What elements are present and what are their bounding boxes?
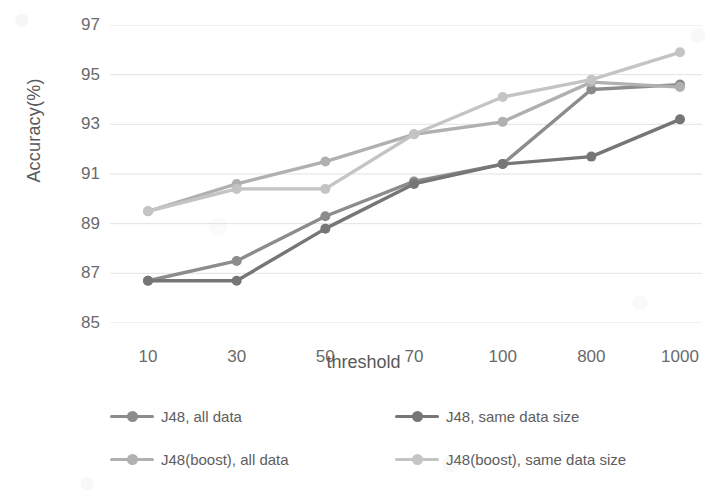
data-point	[675, 47, 685, 57]
line-chart-figure: Accuracy(%) 97959391898785 1030507010080…	[0, 0, 727, 504]
data-point	[232, 276, 242, 286]
data-point	[320, 184, 330, 194]
data-point	[320, 211, 330, 221]
y-tick-label: 97	[54, 15, 100, 35]
y-tick-label: 85	[54, 313, 100, 333]
plot-area: 97959391898785 103050701008001000	[110, 25, 702, 323]
gridlines-group	[110, 25, 702, 323]
chart-legend: J48, all dataJ48, same data sizeJ48(boos…	[110, 408, 710, 468]
y-tick-label: 87	[54, 263, 100, 283]
legend-item-3[interactable]: J48(boost), same data size	[395, 451, 680, 468]
series-2	[143, 77, 685, 216]
data-point	[498, 159, 508, 169]
series-1	[143, 114, 685, 285]
data-point	[498, 92, 508, 102]
legend-item-0[interactable]: J48, all data	[110, 408, 395, 425]
data-point	[320, 157, 330, 167]
legend-item-1[interactable]: J48, same data size	[395, 408, 680, 425]
legend-label: J48, all data	[161, 408, 242, 425]
data-point	[320, 224, 330, 234]
data-point	[143, 206, 153, 216]
legend-marker-icon	[395, 453, 439, 467]
legend-marker-icon	[110, 410, 154, 424]
data-point	[675, 82, 685, 92]
legend-label: J48(boost), all data	[161, 451, 289, 468]
legend-item-2[interactable]: J48(boost), all data	[110, 451, 395, 468]
data-point	[586, 75, 596, 85]
series-line	[148, 119, 680, 280]
legend-label: J48, same data size	[446, 408, 579, 425]
y-tick-label: 91	[54, 164, 100, 184]
data-point	[675, 114, 685, 124]
data-point	[409, 129, 419, 139]
series-group	[143, 47, 685, 285]
series-3	[143, 47, 685, 216]
legend-label: J48(boost), same data size	[446, 451, 626, 468]
data-point	[143, 276, 153, 286]
data-point	[232, 256, 242, 266]
y-tick-label: 89	[54, 214, 100, 234]
legend-marker-icon	[395, 410, 439, 424]
y-tick-label: 93	[54, 114, 100, 134]
data-point	[409, 179, 419, 189]
data-point	[498, 117, 508, 127]
data-point	[232, 184, 242, 194]
data-point	[586, 152, 596, 162]
x-axis-title: threshold	[0, 352, 727, 373]
y-axis-title: Accuracy(%)	[24, 51, 45, 211]
plot-svg	[110, 25, 702, 323]
y-tick-label: 95	[54, 65, 100, 85]
legend-marker-icon	[110, 453, 154, 467]
